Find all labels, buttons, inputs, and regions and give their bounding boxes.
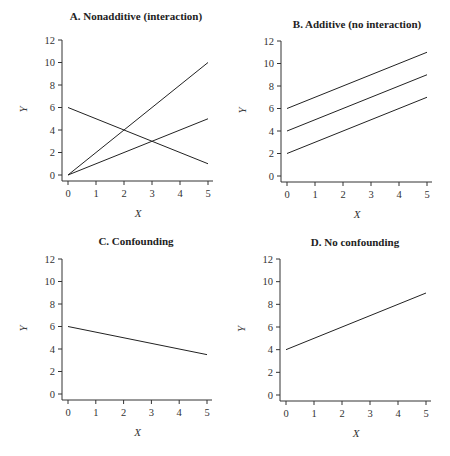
y-tick-label: 12 (264, 36, 275, 47)
x-tick-label: 5 (424, 189, 429, 200)
x-tick-label: 0 (284, 189, 289, 200)
x-tick-label: 1 (311, 408, 316, 419)
data-line (68, 63, 208, 176)
x-tick-label: 1 (312, 189, 317, 200)
y-tick-label: 0 (269, 171, 274, 182)
x-tick-label: 3 (149, 407, 154, 418)
x-tick-label: 5 (423, 408, 428, 419)
x-tick-label: 2 (340, 189, 345, 200)
data-line (68, 119, 208, 175)
panel-title: A. Nonadditive (interaction) (70, 10, 203, 23)
y-tick-label: 0 (50, 170, 55, 181)
y-tick-label: 2 (50, 366, 55, 377)
y-tick-label: 8 (269, 81, 274, 92)
x-tick-label: 0 (65, 188, 70, 199)
data-line (287, 97, 427, 153)
x-axis-label: X (134, 207, 143, 219)
panel-title: D. No confounding (311, 236, 400, 248)
data-line (286, 293, 426, 350)
y-tick-label: 4 (50, 344, 56, 355)
y-tick-label: 2 (268, 367, 273, 378)
y-tick-label: 8 (50, 299, 55, 310)
data-line (287, 75, 427, 131)
x-tick-label: 3 (149, 188, 154, 199)
y-tick-label: 12 (45, 254, 56, 265)
panel-a: A. Nonadditive (interaction)024681012012… (17, 10, 213, 219)
y-tick-label: 6 (50, 102, 55, 113)
x-axis-label: X (353, 208, 362, 220)
data-line (287, 52, 427, 108)
y-tick-label: 10 (264, 58, 275, 69)
x-axis-label: X (133, 426, 142, 438)
y-axis-label: Y (235, 324, 247, 332)
x-tick-label: 4 (177, 407, 183, 418)
x-axis-label: X (352, 427, 361, 439)
x-tick-label: 1 (93, 188, 98, 199)
y-tick-label: 8 (268, 299, 273, 310)
x-tick-label: 2 (121, 407, 126, 418)
panel-b: B. Additive (no interaction)024681012012… (236, 18, 432, 220)
panel-title: B. Additive (no interaction) (293, 18, 422, 31)
y-tick-label: 10 (45, 276, 56, 287)
x-tick-label: 4 (395, 408, 401, 419)
y-tick-label: 12 (45, 35, 56, 46)
panel-c: C. Confounding024681012012345XY (17, 235, 212, 438)
y-tick-label: 4 (268, 344, 274, 355)
x-tick-label: 2 (339, 408, 344, 419)
panel-title: C. Confounding (98, 235, 174, 247)
y-tick-label: 0 (50, 389, 55, 400)
y-axis-label: Y (236, 106, 248, 114)
y-axis-label: Y (17, 324, 29, 332)
y-tick-label: 2 (269, 148, 274, 159)
y-tick-label: 8 (50, 80, 55, 91)
x-tick-label: 3 (368, 189, 373, 200)
y-tick-label: 4 (50, 125, 56, 136)
x-tick-label: 0 (65, 407, 70, 418)
y-tick-label: 4 (269, 126, 275, 137)
y-tick-label: 12 (263, 254, 274, 265)
panel-d: D. No confounding024681012012345XY (235, 236, 431, 439)
y-tick-label: 10 (263, 276, 274, 287)
x-tick-label: 4 (177, 188, 183, 199)
data-line (68, 327, 207, 355)
x-tick-label: 4 (396, 189, 402, 200)
data-line (68, 108, 208, 164)
x-tick-label: 2 (121, 188, 126, 199)
y-tick-label: 6 (50, 321, 55, 332)
y-tick-label: 10 (45, 57, 56, 68)
y-tick-label: 6 (269, 103, 274, 114)
figure-four-panels: A. Nonadditive (interaction)024681012012… (0, 0, 450, 456)
x-tick-label: 5 (204, 407, 209, 418)
y-tick-label: 6 (268, 322, 273, 333)
x-tick-label: 3 (367, 408, 372, 419)
y-tick-label: 0 (268, 390, 273, 401)
y-tick-label: 2 (50, 147, 55, 158)
x-tick-label: 5 (205, 188, 210, 199)
x-tick-label: 1 (93, 407, 98, 418)
x-tick-label: 0 (283, 408, 288, 419)
y-axis-label: Y (17, 105, 29, 113)
